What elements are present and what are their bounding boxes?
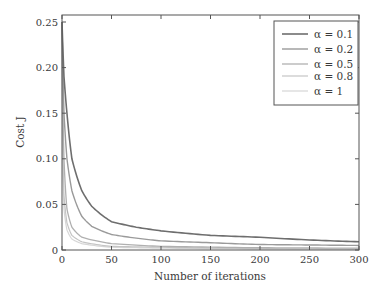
legend-entry-label: α = 0.8 (314, 70, 353, 82)
x-tick-label: 250 (300, 254, 319, 265)
legend-entry-label: α = 0.1 (314, 28, 353, 40)
y-tick-label: 0.25 (36, 17, 58, 28)
x-tick-label: 200 (250, 254, 269, 265)
y-tick-label: 0.05 (36, 199, 58, 210)
y-axis-label: Cost J (14, 116, 26, 148)
cost-vs-iterations-chart: 050100150200250300 00.050.100.150.200.25… (0, 0, 383, 293)
y-tick-label: 0.20 (36, 62, 58, 73)
x-tick-label: 0 (59, 254, 65, 265)
legend: α = 0.1α = 0.2α = 0.5α = 0.8α = 1 (274, 21, 358, 105)
y-tick-label: 0.10 (36, 153, 58, 164)
x-tick-label: 300 (349, 254, 368, 265)
x-tick-label: 150 (201, 254, 220, 265)
x-axis-label: Number of iterations (154, 270, 266, 282)
legend-entry-label: α = 0.2 (314, 43, 353, 55)
y-tick-label: 0 (52, 245, 58, 256)
legend-entry-label: α = 0.5 (314, 58, 353, 70)
y-tick-label: 0.15 (36, 108, 58, 119)
x-tick-label: 50 (105, 254, 118, 265)
legend-entry-label: α = 1 (314, 85, 343, 97)
x-tick-label: 100 (151, 254, 170, 265)
